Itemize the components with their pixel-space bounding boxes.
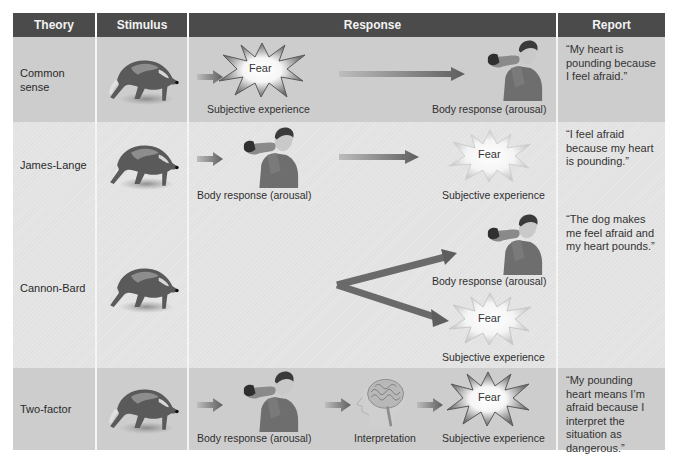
column-divider xyxy=(187,37,189,122)
caption-interpretation: Interpretation xyxy=(354,432,416,444)
row-common-sense: Common sense Fear Subjective experience … xyxy=(13,37,665,122)
header-stimulus: Stimulus xyxy=(97,13,187,37)
response-cell: Fear Subjective experience Body response… xyxy=(189,37,556,122)
caption-subjective-experience: Subjective experience xyxy=(207,103,310,115)
caption-subjective-experience: Subjective experience xyxy=(442,351,545,363)
branching-arrow-icon xyxy=(209,247,459,327)
running-dog-icon xyxy=(105,376,183,440)
fear-label: Fear xyxy=(478,391,501,403)
theory-name: Cannon-Bard xyxy=(13,207,95,368)
header-report: Report xyxy=(558,13,665,37)
header-response: Response xyxy=(189,13,556,37)
response-cell: Body response (arousal) Fear Subjective … xyxy=(189,122,556,207)
running-dog-icon xyxy=(105,47,183,111)
column-divider xyxy=(556,122,558,207)
man-flinching-icon xyxy=(241,126,301,188)
caption-body-response: Body response (arousal) xyxy=(432,275,546,287)
running-dog-icon xyxy=(105,255,183,319)
stimulus-cell xyxy=(97,122,187,207)
brain-head-icon xyxy=(355,372,409,430)
header-theory: Theory xyxy=(13,13,95,37)
theory-name: James-Lange xyxy=(13,122,95,207)
report-quote: “My pounding heart means I’m afraid beca… xyxy=(558,368,665,450)
column-divider xyxy=(95,37,97,122)
arrow-right-icon xyxy=(197,398,223,412)
man-flinching-icon xyxy=(485,213,545,275)
column-divider xyxy=(556,37,558,122)
caption-subjective-experience: Subjective experience xyxy=(442,432,545,444)
fear-label: Fear xyxy=(478,148,501,160)
column-divider xyxy=(187,368,189,450)
column-divider xyxy=(95,122,97,207)
row-cannon-bard: Cannon-Bard Body response (arousal) Fear… xyxy=(13,207,665,368)
stimulus-cell xyxy=(97,368,187,450)
column-divider xyxy=(187,207,189,368)
row-james-lange: James-Lange Body response (arousal) Fear… xyxy=(13,122,665,207)
column-divider xyxy=(556,207,558,368)
report-quote: “My heart is pounding because I feel afr… xyxy=(558,37,665,122)
fear-label: Fear xyxy=(249,62,272,74)
man-flinching-icon xyxy=(485,39,545,101)
theory-name: Common sense xyxy=(13,37,95,122)
arrow-right-icon xyxy=(339,150,419,164)
row-two-factor: Two-factor Body response (arousal) Inter… xyxy=(13,368,665,450)
arrow-right-icon xyxy=(197,152,223,166)
stimulus-cell xyxy=(97,37,187,122)
column-divider xyxy=(95,207,97,368)
running-dog-icon xyxy=(105,132,183,196)
caption-body-response: Body response (arousal) xyxy=(197,432,311,444)
caption-body-response: Body response (arousal) xyxy=(432,103,546,115)
theory-name: Two-factor xyxy=(13,368,95,450)
stimulus-cell xyxy=(97,207,187,368)
report-quote: “I feel afraid because my heart is pound… xyxy=(558,122,665,207)
man-flinching-icon xyxy=(241,370,301,432)
arrow-right-icon xyxy=(339,67,465,81)
response-cell: Body response (arousal) Interpretation F… xyxy=(189,368,556,450)
fear-label: Fear xyxy=(478,312,501,324)
arrow-right-icon xyxy=(325,398,351,412)
caption-subjective-experience: Subjective experience xyxy=(442,189,545,201)
column-divider xyxy=(95,368,97,450)
arrow-right-icon xyxy=(417,398,443,412)
report-quote: “The dog makes me feel afraid and my hea… xyxy=(558,207,665,368)
caption-body-response: Body response (arousal) xyxy=(197,189,311,201)
column-divider xyxy=(187,122,189,207)
column-divider xyxy=(556,368,558,450)
response-cell: Body response (arousal) Fear Subjective … xyxy=(189,207,556,368)
